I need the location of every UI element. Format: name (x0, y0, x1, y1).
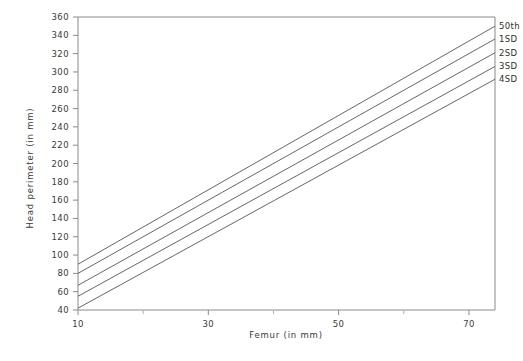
y-tick-label: 340 (52, 30, 69, 40)
legend: 50th1SD2SD3SD4SD (499, 21, 520, 84)
x-tick-label: 10 (72, 319, 84, 329)
series-line-3sd (78, 66, 495, 296)
y-tick-label: 40 (57, 305, 69, 315)
y-axis-tick-labels: 4060801001201401601802002202402602803003… (52, 12, 69, 315)
y-tick-label: 100 (52, 250, 69, 260)
y-tick-label: 260 (52, 104, 69, 114)
y-axis-ticks (73, 17, 78, 310)
x-axis-ticks (78, 310, 469, 315)
y-tick-label: 160 (52, 195, 69, 205)
x-tick-label: 70 (463, 319, 475, 329)
y-tick-label: 200 (52, 159, 69, 169)
y-tick-label: 120 (52, 232, 69, 242)
y-tick-label: 140 (52, 213, 69, 223)
y-tick-label: 280 (52, 85, 69, 95)
legend-label-3sd: 3SD (499, 61, 518, 71)
y-tick-label: 60 (57, 287, 69, 297)
legend-label-50th: 50th (499, 21, 520, 31)
y-tick-label: 80 (57, 268, 69, 278)
x-axis-title: Femur (in mm) (249, 330, 323, 340)
x-tick-label: 50 (333, 319, 345, 329)
x-axis-tick-labels: 10305070 (72, 319, 475, 329)
x-tick-label: 30 (203, 319, 215, 329)
plot-frame (78, 17, 495, 310)
series-line-4sd (78, 79, 495, 308)
series-line-1sd (78, 39, 495, 273)
legend-label-2sd: 2SD (499, 48, 518, 58)
y-tick-label: 300 (52, 67, 69, 77)
y-tick-label: 180 (52, 177, 69, 187)
series-line-2sd (78, 53, 495, 286)
legend-label-4sd: 4SD (499, 74, 518, 84)
y-axis-title: Head perimeter (in mm) (25, 108, 35, 229)
y-tick-label: 220 (52, 140, 69, 150)
series-line-50th (78, 26, 495, 264)
y-tick-label: 320 (52, 49, 69, 59)
y-tick-label: 360 (52, 12, 69, 22)
nomogram-chart: 4060801001201401601802002202402602803003… (0, 0, 523, 361)
legend-label-1sd: 1SD (499, 34, 518, 44)
data-series-group (78, 26, 495, 308)
y-tick-label: 240 (52, 122, 69, 132)
chart-container: 4060801001201401601802002202402602803003… (0, 0, 523, 361)
